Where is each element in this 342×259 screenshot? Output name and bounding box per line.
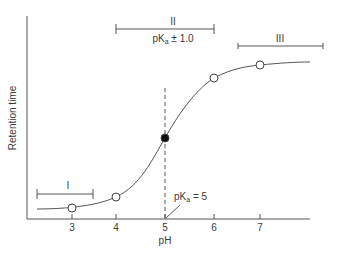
open-circle-marker	[112, 193, 120, 201]
x-axis-label: pH	[159, 235, 172, 246]
x-ticks	[72, 214, 260, 219]
pka-value-label: pKa = 5	[174, 191, 208, 203]
y-axis-label: Retention time	[7, 85, 18, 150]
region-I-label: I	[67, 180, 70, 191]
tick-label-6: 6	[211, 222, 217, 233]
data-markers	[68, 61, 264, 212]
pka-leader-line	[166, 205, 180, 218]
region-I-bracket	[37, 189, 93, 199]
region-III-label: III	[276, 33, 284, 44]
tick-label-5: 5	[162, 222, 168, 233]
open-circle-marker	[68, 204, 76, 212]
tick-label-3: 3	[69, 222, 75, 233]
open-circle-marker	[210, 74, 218, 82]
retention-vs-ph-chart: 3 4 5 6 7 pH Retention time I	[0, 0, 342, 259]
pka-range-label: pKa ± 1.0	[152, 33, 194, 45]
filled-circle-marker	[161, 134, 169, 142]
x-tick-labels: 3 4 5 6 7	[69, 222, 263, 233]
region-II-label: II	[170, 16, 176, 27]
tick-label-4: 4	[113, 222, 119, 233]
region-II-bracket	[116, 24, 214, 34]
tick-label-7: 7	[257, 222, 263, 233]
open-circle-marker	[256, 61, 264, 69]
retention-curve	[37, 62, 310, 209]
